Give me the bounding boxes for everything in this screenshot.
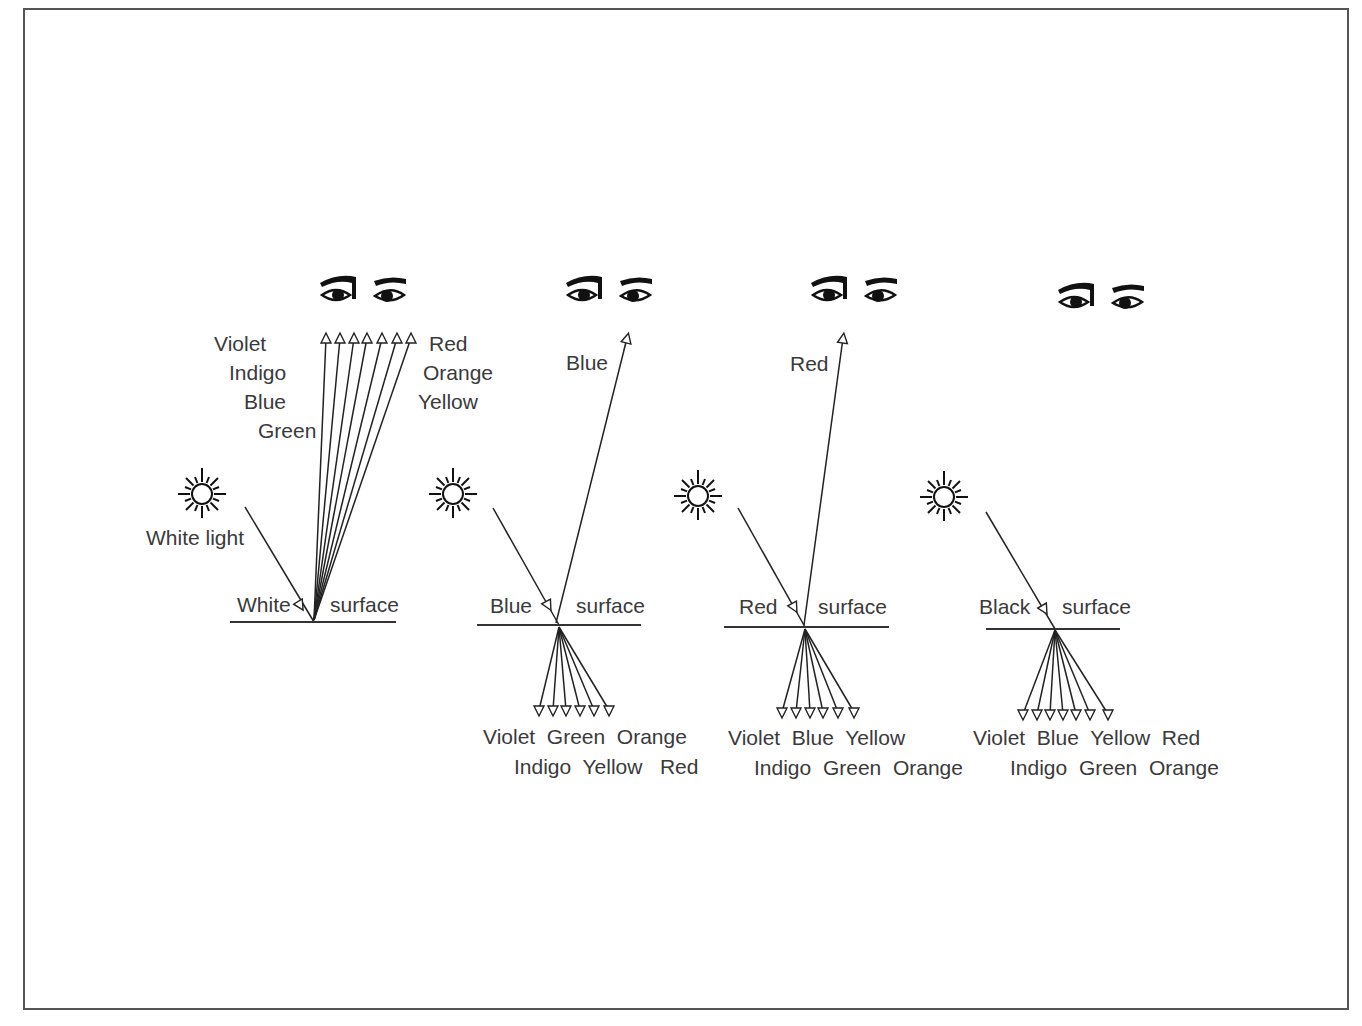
label-indigo: Indigo <box>229 361 286 384</box>
surface-word-label: surface <box>818 595 887 618</box>
arrowhead-icon <box>542 599 556 613</box>
absorbed-labels-row2: Indigo Green Orange <box>754 756 963 779</box>
surface-color-label: White <box>237 593 291 616</box>
arrowhead-icon <box>788 601 802 615</box>
panel-white-surface: Violet Indigo Blue Green Red Orange Yell… <box>146 276 493 622</box>
eyes-icon <box>1058 283 1144 309</box>
label-yellow: Yellow <box>418 390 479 413</box>
absorbed-labels-row1: Violet Green Orange <box>483 725 687 748</box>
absorbed-labels-row2: Indigo Yellow Red <box>514 755 698 778</box>
sun-icon <box>920 471 968 521</box>
arrowhead-icon <box>1038 603 1052 617</box>
reflected-ray <box>556 338 627 623</box>
reflection-diagram: Violet Indigo Blue Green Red Orange Yell… <box>0 0 1362 1026</box>
absorbed-labels-row1: Violet Blue Yellow Red <box>973 726 1200 749</box>
panel-black-surface: Black surface Violet Blue Yellow Red Ind… <box>920 283 1219 779</box>
incoming-label: White light <box>146 526 244 549</box>
reflected-ray <box>804 338 843 625</box>
eyes-icon <box>811 276 897 302</box>
surface-word-label: surface <box>330 593 399 616</box>
label-violet: Violet <box>214 332 266 355</box>
sun-icon <box>674 470 722 520</box>
absorbed-labels-row1: Violet Blue Yellow <box>728 726 906 749</box>
reflected-label: Red <box>790 352 829 375</box>
reflected-label: Blue <box>566 351 608 374</box>
surface-word-label: surface <box>1062 595 1131 618</box>
surface-color-label: Red <box>739 595 778 618</box>
eyes-icon <box>566 276 652 302</box>
reflected-rays <box>314 333 416 620</box>
panel-blue-surface: Blue Blue surface Violet Green Orange In… <box>429 276 698 778</box>
absorbed-rays <box>534 627 614 716</box>
arrowhead-icon <box>837 332 848 343</box>
eyes-icon <box>320 276 406 302</box>
absorbed-rays <box>1018 630 1113 720</box>
absorbed-labels-row2: Indigo Green Orange <box>1010 756 1219 779</box>
sun-icon <box>429 468 477 518</box>
arrowhead-icon <box>294 599 308 613</box>
label-green: Green <box>258 419 316 442</box>
absorbed-rays <box>777 629 859 718</box>
label-red: Red <box>429 332 468 355</box>
label-blue: Blue <box>244 390 286 413</box>
sun-icon <box>178 468 226 518</box>
panel-red-surface: Red Red surface Violet Blue Yellow Indig… <box>674 276 963 779</box>
surface-color-label: Blue <box>490 594 532 617</box>
surface-color-label: Black <box>979 595 1031 618</box>
label-orange: Orange <box>423 361 493 384</box>
surface-word-label: surface <box>576 594 645 617</box>
arrowhead-icon <box>621 332 633 344</box>
